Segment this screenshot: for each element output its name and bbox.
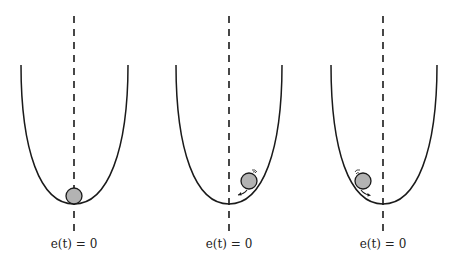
panel-2-label: e(t) = 0 xyxy=(179,237,279,251)
spin-mark-icon xyxy=(252,170,257,173)
panel-3 xyxy=(331,16,437,236)
potential-well-curve xyxy=(331,65,437,204)
diagram-canvas xyxy=(0,0,456,264)
panel-1-label: e(t) = 0 xyxy=(24,237,124,251)
panel-3-label: e(t) = 0 xyxy=(333,237,433,251)
arrowhead-icon xyxy=(368,193,372,197)
ball xyxy=(66,188,82,204)
panel-2 xyxy=(176,16,282,236)
ball xyxy=(241,173,257,189)
ball xyxy=(355,173,371,189)
panel-1 xyxy=(21,16,128,236)
arrowhead-icon xyxy=(238,192,242,196)
